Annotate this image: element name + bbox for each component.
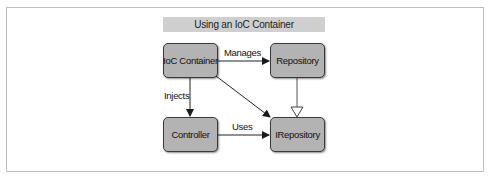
edge-label-manages: Manages	[224, 47, 261, 58]
diagram-title: Using an IoC Container	[163, 17, 325, 32]
node-ioc-container: IoC Container	[163, 43, 218, 78]
node-controller: Controller	[163, 117, 218, 152]
node-repository: Repository	[270, 43, 325, 78]
edge-label-uses: Uses	[232, 121, 252, 132]
edge-label-injects: Injects	[164, 90, 189, 101]
node-irepository: IRepository	[270, 117, 325, 152]
